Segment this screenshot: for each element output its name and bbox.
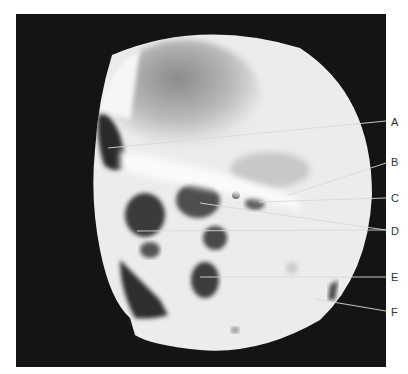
label-c: C — [391, 193, 399, 204]
label-a: A — [391, 117, 398, 128]
label-d: D — [391, 226, 399, 237]
radiograph-figure — [0, 0, 408, 374]
label-e: E — [391, 272, 398, 283]
label-b: B — [391, 157, 398, 168]
label-f: F — [391, 307, 398, 318]
